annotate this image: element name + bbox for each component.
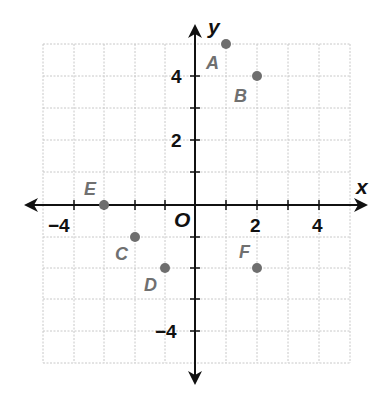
- point-b: [252, 71, 262, 81]
- point-e: [99, 200, 109, 210]
- x-tick-label: −4: [48, 215, 70, 236]
- point-a: [221, 39, 231, 49]
- x-tick-label: 4: [312, 215, 323, 236]
- y-tick-label: 4: [171, 66, 182, 87]
- point-label-e: E: [84, 179, 97, 199]
- grid: [43, 44, 350, 363]
- point-label-c: C: [115, 244, 129, 264]
- coordinate-plane: −4 2 4 4 2 −4 O x y A B C D E F: [0, 0, 391, 403]
- point-d: [160, 263, 170, 273]
- y-tick-label: −4: [155, 321, 177, 342]
- point-label-a: A: [205, 53, 219, 73]
- point-label-b: B: [234, 86, 247, 106]
- y-tick-label: 2: [171, 130, 182, 151]
- x-axis-label: x: [355, 175, 369, 198]
- y-axis-label: y: [207, 15, 221, 38]
- point-f: [252, 263, 262, 273]
- point-label-f: F: [239, 242, 251, 262]
- origin-label: O: [174, 208, 190, 231]
- point-label-d: D: [144, 275, 157, 295]
- point-c: [130, 232, 140, 242]
- x-tick-label: 2: [250, 215, 261, 236]
